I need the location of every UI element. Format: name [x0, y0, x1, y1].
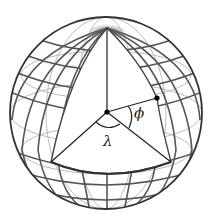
lambda-label: λ — [102, 132, 113, 150]
origin-point — [104, 109, 109, 114]
phi-label: ϕ — [134, 104, 144, 122]
surface-point — [154, 95, 159, 100]
sphere-diagram: λ ϕ — [0, 0, 210, 220]
